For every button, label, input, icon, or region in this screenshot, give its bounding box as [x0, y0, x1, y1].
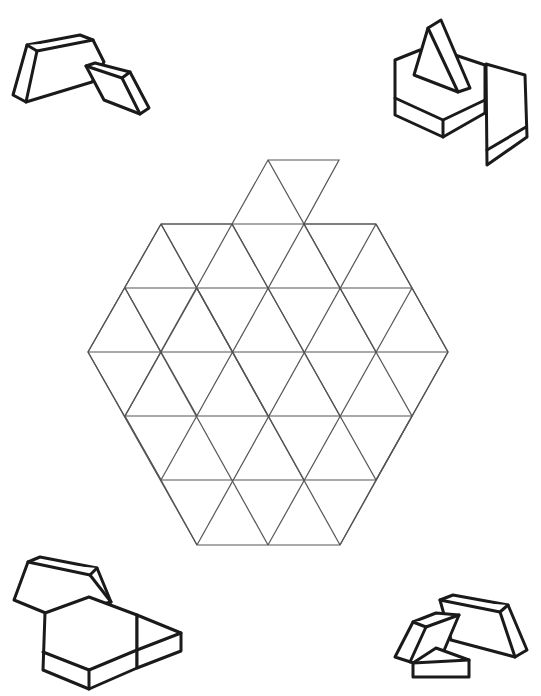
rhombus-block-icon [86, 63, 149, 114]
worksheet-canvas [0, 0, 541, 696]
pattern-blocks-bottom-left [14, 557, 181, 689]
apple-triangle-grid [88, 160, 448, 545]
rhombus-block-icon [486, 64, 527, 165]
pattern-blocks-bottom-right [395, 595, 527, 677]
hexagon-block-icon [43, 597, 137, 689]
pattern-blocks-top-right [395, 20, 527, 165]
triangle-block-icon [137, 615, 181, 668]
pattern-blocks-top-left [13, 35, 149, 114]
